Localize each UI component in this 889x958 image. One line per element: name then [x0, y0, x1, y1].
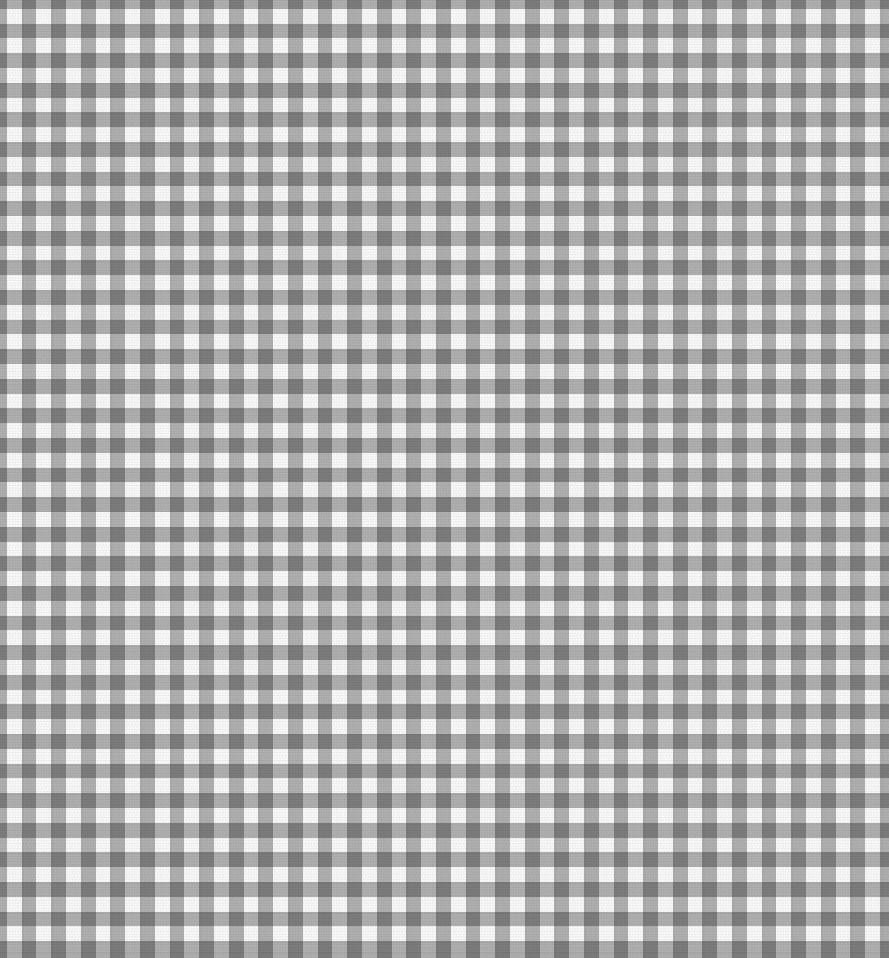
thread-feather-layer: [0, 0, 889, 958]
fabric-swatch: Gray and white gingham check fabric swat…: [0, 0, 889, 958]
cloth-sheen-layer: [0, 0, 889, 958]
warp-stripes-layer: [0, 0, 889, 958]
weave-texture-layer: [0, 0, 889, 958]
weft-stripes-layer: [0, 0, 889, 958]
